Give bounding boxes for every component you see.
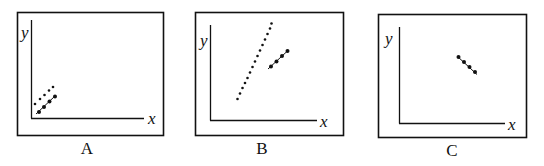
panel-a-y-label: y (19, 23, 29, 42)
panel-b-y-label: y (198, 31, 208, 50)
panel-a: y x (18, 13, 164, 136)
panel-c-large-dots (457, 55, 478, 75)
panel-a-x-label: x (147, 109, 156, 128)
panel-c-caption: C (432, 141, 472, 161)
panel-b: y x (196, 13, 344, 136)
panel-b-large-dots (268, 49, 290, 69)
panel-b-x-label: x (319, 112, 328, 131)
panel-a-large-dots (36, 95, 57, 115)
panel-c-y-label: y (383, 29, 393, 48)
panel-b-small-dots (236, 22, 273, 100)
panel-a-caption: A (67, 139, 107, 159)
panel-c-frame (379, 15, 527, 138)
panel-c: y x (379, 15, 527, 138)
panel-b-caption: B (242, 139, 282, 159)
panel-c-x-label: x (507, 115, 516, 134)
panel-a-frame (18, 13, 164, 136)
